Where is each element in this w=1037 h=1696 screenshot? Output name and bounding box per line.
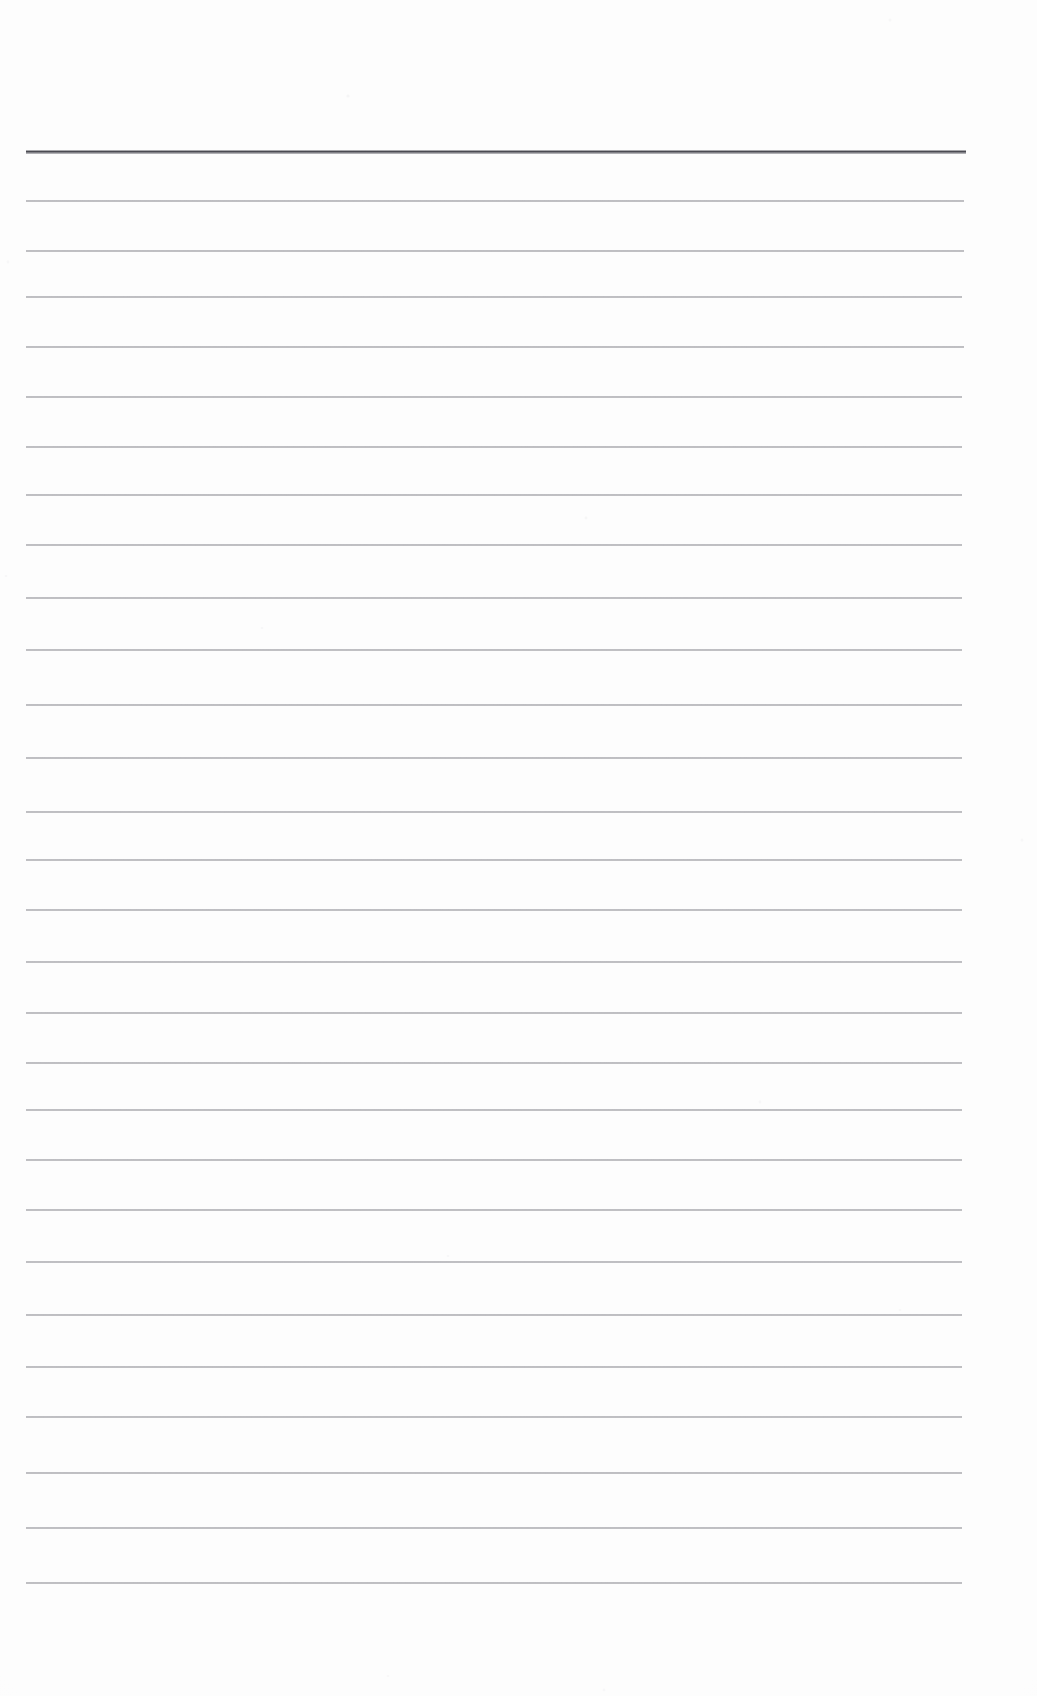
header-rule-line <box>26 150 966 153</box>
rule-ink <box>26 597 962 599</box>
scan-speckle <box>585 517 588 520</box>
rule-ink <box>26 859 962 861</box>
rule-line <box>26 961 962 963</box>
rule-line <box>26 346 964 348</box>
rule-ink <box>26 704 962 706</box>
rule-ink <box>26 346 964 348</box>
rule-line <box>26 200 964 202</box>
rule-ink <box>26 446 962 448</box>
rule-line <box>26 704 962 706</box>
rule-ink <box>26 961 962 963</box>
rule-line <box>26 1261 962 1263</box>
rule-line <box>26 1012 962 1014</box>
rule-ink <box>26 1582 962 1584</box>
rule-ink <box>26 1012 962 1014</box>
rule-line <box>26 909 962 911</box>
scan-speckle <box>346 94 349 97</box>
rule-line <box>26 1062 962 1064</box>
rule-ink <box>26 1416 962 1418</box>
rule-ink <box>26 1159 962 1161</box>
rule-ink <box>26 1209 962 1211</box>
scan-speckle <box>261 627 264 630</box>
scan-speckle <box>387 1675 390 1678</box>
rule-line <box>26 1472 962 1474</box>
rule-line <box>26 757 962 759</box>
speckle-group <box>5 19 1024 1692</box>
rule-ink <box>26 909 962 911</box>
rule-ink <box>26 396 962 398</box>
rule-line <box>26 1109 962 1111</box>
rule-ink <box>26 150 966 153</box>
rule-line <box>26 649 962 651</box>
scan-speckle <box>603 1689 606 1692</box>
rule-line <box>26 494 962 496</box>
scan-speckle <box>889 19 892 22</box>
rule-line <box>26 1527 962 1529</box>
rule-line <box>26 544 962 546</box>
rule-ink <box>26 1314 962 1316</box>
rule-line <box>26 811 962 813</box>
rule-ink <box>26 296 962 298</box>
paper-texture <box>0 0 1037 1696</box>
rule-line <box>26 597 962 599</box>
rule-ink <box>26 757 962 759</box>
rule-line <box>26 1582 962 1584</box>
scan-speckle <box>1021 839 1024 842</box>
rule-ink <box>26 1472 962 1474</box>
rule-line <box>26 1209 962 1211</box>
rule-ink <box>26 494 962 496</box>
rule-ink <box>26 1527 962 1529</box>
scan-speckle <box>447 1255 450 1258</box>
rule-ink <box>26 1261 962 1263</box>
scan-noise-layer <box>0 0 1037 1696</box>
rule-line <box>26 396 962 398</box>
scan-speckle <box>7 261 10 264</box>
rule-ink <box>26 1366 962 1368</box>
scanned-page <box>0 0 1037 1696</box>
rule-line <box>26 859 962 861</box>
rule-ink <box>26 811 962 813</box>
scan-speckle <box>5 575 8 578</box>
scan-speckle <box>899 1309 902 1312</box>
rule-line <box>26 446 962 448</box>
rule-line <box>26 1314 962 1316</box>
rule-ink <box>26 1062 962 1064</box>
rule-ink <box>26 250 964 252</box>
rule-line <box>26 1366 962 1368</box>
rule-ink <box>26 544 962 546</box>
scan-speckle <box>759 1101 762 1104</box>
rule-ink <box>26 1109 962 1111</box>
rule-line <box>26 250 964 252</box>
rule-ink <box>26 200 964 202</box>
rule-line <box>26 1416 962 1418</box>
rule-line <box>26 296 962 298</box>
rule-line <box>26 1159 962 1161</box>
rule-ink <box>26 649 962 651</box>
